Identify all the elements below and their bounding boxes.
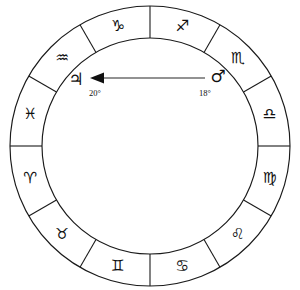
zodiac-glyph-taurus: ♉ — [55, 225, 69, 243]
sector-divider-group — [10, 6, 290, 286]
zodiac-glyph-leo: ♌ — [231, 225, 245, 243]
aspect-arrow-group — [90, 73, 205, 84]
zodiac-glyph-virgo: ♍ — [263, 169, 277, 187]
zodiac-wheel-chart: ♐♏♎♍♌♋♊♉♈♓♒♑ ♃20°♂18° — [0, 0, 300, 290]
planet-group: ♃20°♂18° — [68, 66, 225, 98]
sector-divider — [244, 76, 272, 92]
zodiac-glyph-sagittarius: ♐ — [175, 17, 189, 35]
zodiac-sign-group: ♐♏♎♍♌♋♊♉♈♓♒♑ — [23, 17, 277, 275]
sector-divider — [204, 25, 220, 53]
zodiac-glyph-aquarius: ♒ — [55, 49, 69, 67]
sector-divider — [204, 240, 220, 268]
zodiac-glyph-pisces: ♓ — [23, 105, 37, 123]
planet-glyph-jupiter: ♃ — [68, 69, 83, 89]
zodiac-glyph-capricorn: ♑ — [111, 17, 125, 35]
zodiac-glyph-gemini: ♊ — [111, 257, 125, 275]
sector-divider — [244, 200, 272, 216]
degree-label-jupiter: 20° — [89, 88, 101, 98]
zodiac-wheel-svg: ♐♏♎♍♌♋♊♉♈♓♒♑ ♃20°♂18° — [0, 0, 300, 290]
zodiac-glyph-aries: ♈ — [23, 169, 37, 187]
aspect-arrow-head-icon — [90, 73, 104, 84]
sector-divider — [29, 76, 57, 92]
zodiac-glyph-cancer: ♋ — [175, 257, 189, 275]
outer-ring-circle — [10, 6, 290, 286]
sector-divider — [29, 200, 57, 216]
zodiac-glyph-libra: ♎ — [263, 105, 277, 123]
sector-divider — [80, 25, 96, 53]
degree-label-mars: 18° — [199, 88, 211, 98]
zodiac-glyph-scorpio: ♏ — [231, 49, 245, 67]
planet-glyph-mars: ♂ — [210, 66, 225, 86]
sector-divider — [80, 240, 96, 268]
